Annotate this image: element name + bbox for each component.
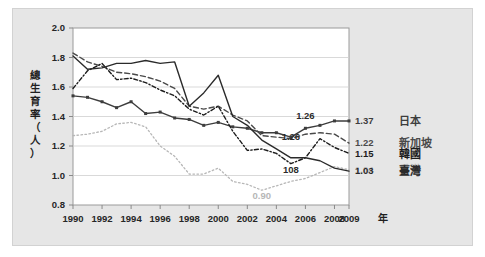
series-marker-0 bbox=[188, 118, 191, 121]
series-marker-0 bbox=[348, 119, 351, 122]
y-axis-label-char: （ bbox=[30, 121, 41, 133]
series-marker-0 bbox=[86, 96, 89, 99]
xtick-label: 2006 bbox=[295, 213, 316, 224]
series-marker-0 bbox=[333, 119, 336, 122]
series-marker-0 bbox=[115, 106, 118, 109]
series-end-label-4: 1.03 bbox=[355, 165, 374, 176]
annotation-2: 108 bbox=[283, 164, 299, 175]
ytick-label: 0.8 bbox=[52, 199, 65, 210]
ytick-label: 1.6 bbox=[52, 81, 65, 92]
legend-item-0[interactable]: 日本 bbox=[399, 114, 421, 127]
series-marker-0 bbox=[275, 131, 278, 134]
series-marker-0 bbox=[217, 121, 220, 124]
xtick-label: 2002 bbox=[237, 213, 258, 224]
xtick-label: 1992 bbox=[91, 213, 112, 224]
series-marker-0 bbox=[130, 100, 133, 103]
xtick-label: 1994 bbox=[121, 213, 143, 224]
series-marker-0 bbox=[318, 124, 321, 127]
y-axis-label-char: 生 bbox=[30, 82, 41, 94]
y-axis-label-char: 人 bbox=[30, 134, 41, 146]
series-marker-0 bbox=[304, 127, 307, 130]
y-axis-label-char: 率 bbox=[30, 108, 41, 120]
ytick-label: 1.0 bbox=[52, 170, 65, 181]
annotation-0: 1.26 bbox=[296, 110, 315, 121]
series-marker-0 bbox=[202, 124, 205, 127]
chart-screenshot: 0.81.01.21.41.61.82.01990199219941996199… bbox=[0, 0, 485, 257]
ytick-label: 2.0 bbox=[52, 22, 65, 33]
xtick-label: 2000 bbox=[208, 213, 229, 224]
xtick-label: 2004 bbox=[266, 213, 288, 224]
xtick-label: 1990 bbox=[62, 213, 83, 224]
series-marker-0 bbox=[159, 111, 162, 114]
legend-item-2[interactable]: 韓國 bbox=[399, 147, 421, 160]
legend-item-4[interactable]: 臺灣 bbox=[399, 164, 421, 177]
series-marker-0 bbox=[101, 100, 104, 103]
fertility-rate-line-chart: 0.81.01.21.41.61.82.01990199219941996199… bbox=[13, 9, 474, 247]
ytick-label: 1.8 bbox=[52, 52, 65, 63]
series-end-label-0: 1.37 bbox=[355, 115, 374, 126]
series-marker-0 bbox=[231, 125, 234, 128]
y-axis-label-char: 總 bbox=[30, 69, 41, 81]
series-marker-0 bbox=[173, 116, 176, 119]
annotation-3: 0.90 bbox=[253, 190, 272, 201]
y-axis-label-char: 育 bbox=[30, 95, 41, 107]
xtick-label: 1996 bbox=[150, 213, 171, 224]
series-marker-0 bbox=[72, 94, 75, 97]
xtick-label: 2009 bbox=[338, 213, 359, 224]
ytick-label: 1.4 bbox=[52, 111, 66, 122]
xtick-label: 1998 bbox=[179, 213, 200, 224]
y-axis-label-char: ） bbox=[30, 147, 40, 159]
series-end-label-2: 1.15 bbox=[355, 148, 374, 159]
chart-card: 0.81.01.21.41.61.82.01990199219941996199… bbox=[12, 8, 473, 246]
ytick-label: 1.2 bbox=[52, 140, 65, 151]
annotation-1: 1.26 bbox=[282, 131, 301, 142]
x-axis-label: 年 bbox=[378, 212, 388, 224]
series-marker-0 bbox=[144, 112, 147, 115]
